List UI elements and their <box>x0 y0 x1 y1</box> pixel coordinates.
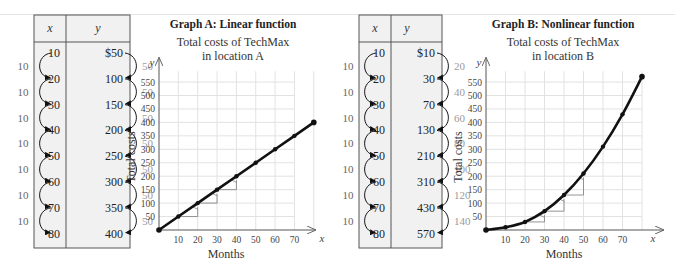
figure-canvas: 10$5020100301504020050250603007035080400… <box>0 0 675 272</box>
data-point <box>311 120 317 126</box>
y-tick-label: 200 <box>468 172 483 182</box>
table-cell-y: 570 <box>417 227 435 241</box>
y-tick-label: 450 <box>468 104 483 114</box>
y-tick-label: 500 <box>141 91 156 101</box>
y-tick-label: 250 <box>468 158 483 168</box>
x-diff-label: 10 <box>343 86 355 98</box>
y-tick-label: 100 <box>468 199 483 209</box>
x-tick-label: 40 <box>559 235 569 245</box>
x-diff-label: 10 <box>343 189 355 201</box>
data-point <box>620 112 624 116</box>
graph-a: 5010015020025030035040045050055010203040… <box>141 57 317 245</box>
x-diff-label: 10 <box>18 112 30 124</box>
table-cell-y: 30 <box>423 72 435 86</box>
x-diff-label: 10 <box>343 137 355 149</box>
y-tick-label: 550 <box>141 78 156 88</box>
y-tick-label: 50 <box>473 212 483 222</box>
y-tick-label: 550 <box>468 78 483 88</box>
data-point <box>562 193 566 197</box>
x-tick-label: 70 <box>290 235 300 245</box>
x-diff-label: 10 <box>18 60 30 72</box>
y-tick-label: 50 <box>146 212 156 222</box>
table-b: 10$1020303070401305021060310704308057010… <box>343 15 472 248</box>
table-cell-x: 80 <box>373 227 385 241</box>
x-tick-label: 30 <box>212 235 222 245</box>
x-diff-label: 10 <box>18 189 30 201</box>
y-tick-label: 150 <box>468 185 483 195</box>
data-point <box>156 227 162 233</box>
x-tick-label: 20 <box>193 235 203 245</box>
table-cell-y: 300 <box>105 175 123 189</box>
x-tick-label: 60 <box>598 235 608 245</box>
table-a: 10$5020100301504020050250603007035080400… <box>18 15 154 248</box>
y-tick-label: 350 <box>141 131 156 141</box>
y-tick-label: 200 <box>141 172 156 182</box>
table-cell-y: 350 <box>105 201 123 215</box>
data-point <box>581 171 585 175</box>
x-tick-label: 50 <box>579 235 589 245</box>
y-tick-label: 300 <box>468 145 483 155</box>
table-cell-y: 210 <box>417 149 435 163</box>
data-point <box>503 225 507 229</box>
table-cell-y: 100 <box>105 72 123 86</box>
y-tick-label: 100 <box>141 199 156 209</box>
graph-b: 5010015020025030035040045050055010203040… <box>468 57 664 245</box>
y-diff-label: 40 <box>454 86 466 98</box>
y-tick-label: 500 <box>468 91 483 101</box>
table-cell-y: 130 <box>417 123 435 137</box>
table-cell-y: 250 <box>105 149 123 163</box>
x-diff-label: 10 <box>18 137 30 149</box>
x-tick-label: 40 <box>232 235 242 245</box>
y-diff-label: 60 <box>454 112 466 124</box>
table-cell-y: $10 <box>417 46 435 60</box>
y-diff-label: 20 <box>454 60 466 72</box>
x-diff-label: 10 <box>343 112 355 124</box>
data-point <box>176 214 180 218</box>
data-point <box>292 134 296 138</box>
x-diff-label: 10 <box>18 215 30 227</box>
data-point <box>639 74 645 80</box>
x-tick-label: 60 <box>270 235 280 245</box>
table-cell-y: 310 <box>417 175 435 189</box>
x-tick-label: 20 <box>520 235 530 245</box>
data-point <box>215 187 219 191</box>
table-cell-y: 430 <box>417 201 435 215</box>
y-tick-label: 250 <box>141 158 156 168</box>
data-point <box>601 144 605 148</box>
y-diff-label: 80 <box>454 137 466 149</box>
y-diff-label: 50 <box>142 60 154 72</box>
data-point <box>234 174 238 178</box>
x-tick-label: 10 <box>501 235 511 245</box>
data-point <box>483 227 489 233</box>
x-diff-label: 10 <box>18 163 30 175</box>
table-cell-y: 70 <box>423 98 435 112</box>
x-tick-label: 50 <box>251 235 261 245</box>
x-tick-label: 30 <box>540 235 550 245</box>
y-tick-label: 400 <box>141 118 156 128</box>
data-point <box>542 209 546 213</box>
data-point <box>273 147 277 151</box>
x-tick-label: 70 <box>618 235 628 245</box>
y-tick-label: 400 <box>468 118 483 128</box>
y-tick-label: 350 <box>468 131 483 141</box>
x-diff-label: 10 <box>343 215 355 227</box>
y-diff-label: 140 <box>454 215 471 227</box>
x-diff-label: 10 <box>343 60 355 72</box>
table-cell-y: $50 <box>105 46 123 60</box>
data-point <box>196 201 200 205</box>
table-cell-y: 200 <box>105 123 123 137</box>
x-diff-label: 10 <box>343 163 355 175</box>
table-cell-y: 400 <box>105 227 123 241</box>
y-tick-label: 450 <box>141 104 156 114</box>
y-tick-label: 150 <box>141 185 156 195</box>
x-tick-label: 10 <box>174 235 184 245</box>
x-diff-label: 10 <box>18 86 30 98</box>
data-point <box>254 161 258 165</box>
table-cell-y: 150 <box>105 98 123 112</box>
y-tick-label: 300 <box>141 145 156 155</box>
data-point <box>523 220 527 224</box>
table-cell-x: 80 <box>48 227 60 241</box>
